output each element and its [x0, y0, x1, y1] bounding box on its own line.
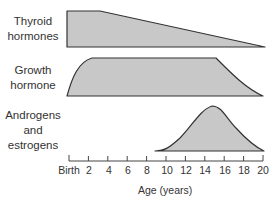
- tick-label-18: 18: [238, 164, 250, 176]
- tick-label-4: 4: [106, 164, 112, 176]
- tick-label-10: 10: [161, 164, 173, 176]
- growth-hormone-area: [67, 58, 263, 96]
- tick-label-6: 6: [125, 164, 131, 176]
- tick-label-16: 16: [219, 164, 231, 176]
- hormone-chart: [0, 0, 279, 205]
- tick-label-2: 2: [86, 164, 92, 176]
- tick-label-birth: Birth: [58, 164, 80, 176]
- tick-label-8: 8: [144, 164, 150, 176]
- tick-label-14: 14: [199, 164, 211, 176]
- tick-label-20: 20: [257, 164, 269, 176]
- thyroid-hormones-area: [67, 11, 265, 47]
- x-axis-title: Age (years): [138, 184, 192, 196]
- androgens-estrogens-area: [155, 106, 264, 151]
- tick-label-12: 12: [180, 164, 192, 176]
- x-axis-ticks: [69, 155, 263, 161]
